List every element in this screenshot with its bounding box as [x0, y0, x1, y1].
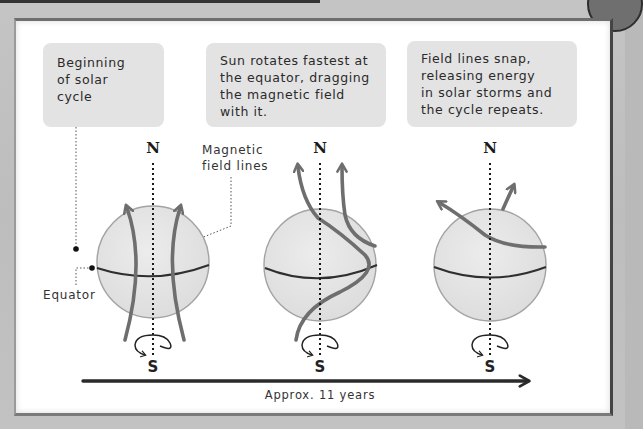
south-label-2: S [315, 358, 326, 376]
equator-pointer-dot [89, 265, 95, 271]
north-label-2: N [313, 139, 327, 157]
label-line: field lines [202, 158, 268, 174]
north-label-1: N [146, 139, 160, 157]
south-label-3: S [485, 358, 496, 376]
magnetic-field-lines-label: Magnetic field lines [202, 142, 268, 174]
equator-label: Equator [43, 287, 96, 303]
timeline-label: Approx. 11 years [260, 387, 380, 403]
label-line: Magnetic [202, 142, 268, 158]
north-label-3: N [483, 139, 497, 157]
sun-stage-3 [434, 163, 546, 356]
south-label-1: S [148, 358, 159, 376]
beginning-pointer-dot [73, 246, 79, 252]
sun-stage-2 [264, 163, 377, 356]
sun-stage-1 [97, 163, 209, 356]
